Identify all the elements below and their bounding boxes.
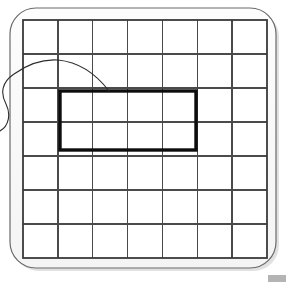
corner-artifact xyxy=(268,275,286,282)
diagram-svg xyxy=(0,0,288,286)
diagram-canvas xyxy=(0,0,288,286)
